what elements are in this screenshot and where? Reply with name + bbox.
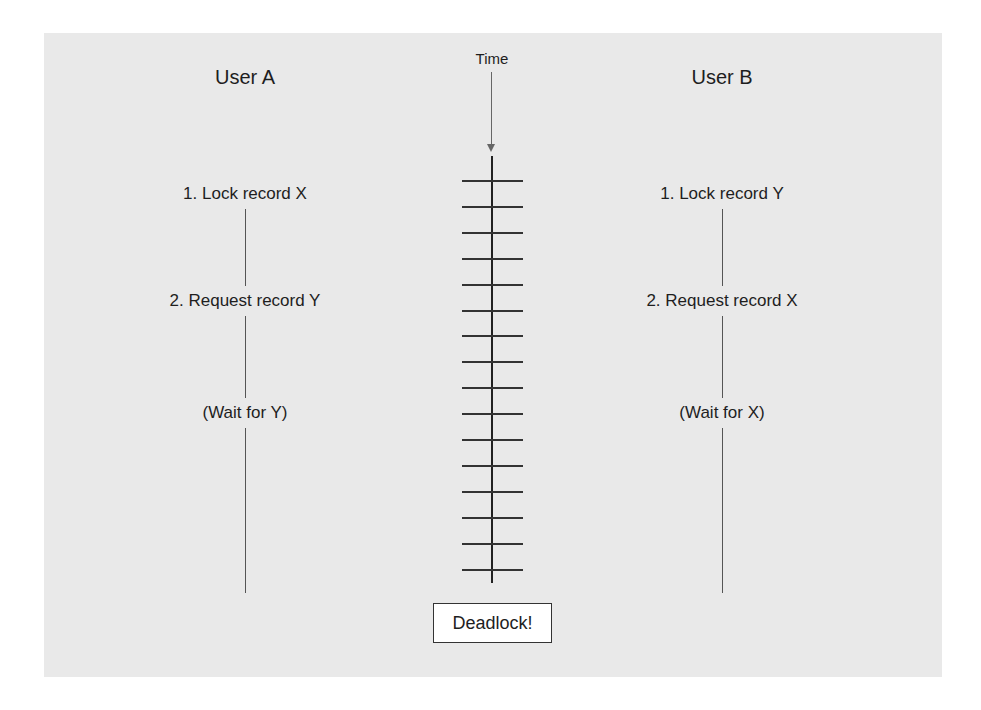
- timeline-tick: [462, 284, 523, 286]
- user-b-line-1: [722, 209, 723, 286]
- user-a-step-3: (Wait for Y): [202, 403, 287, 423]
- user-b-step-2: 2. Request record X: [646, 291, 797, 311]
- timeline-tick: [462, 258, 523, 260]
- user-a-line-3: [245, 428, 246, 593]
- timeline-tick: [462, 465, 523, 467]
- timeline-tick: [462, 206, 523, 208]
- user-a-step-2: 2. Request record Y: [170, 291, 321, 311]
- user-a-line-1: [245, 209, 246, 286]
- timeline-tick: [462, 310, 523, 312]
- user-b-step-1: 1. Lock record Y: [660, 184, 783, 204]
- timeline-tick: [462, 232, 523, 234]
- timeline-tick: [462, 387, 523, 389]
- timeline-axis: [491, 156, 493, 583]
- timeline-tick: [462, 569, 523, 571]
- timeline-tick: [462, 491, 523, 493]
- user-a-line-2: [245, 316, 246, 398]
- user-a-step-1: 1. Lock record X: [183, 184, 307, 204]
- user-a-title: User A: [215, 66, 275, 89]
- user-b-line-3: [722, 428, 723, 593]
- user-b-step-3: (Wait for X): [679, 403, 764, 423]
- user-b-title: User B: [691, 66, 752, 89]
- timeline-tick: [462, 361, 523, 363]
- timeline-tick: [462, 543, 523, 545]
- time-label: Time: [476, 50, 509, 67]
- user-b-line-2: [722, 316, 723, 398]
- deadlock-label: Deadlock!: [452, 613, 532, 634]
- arrow-down-icon: [487, 144, 495, 152]
- timeline-tick: [462, 439, 523, 441]
- deadlock-box: Deadlock!: [433, 603, 552, 643]
- timeline-tick: [462, 413, 523, 415]
- time-arrow-shaft: [491, 72, 492, 145]
- timeline-tick: [462, 180, 523, 182]
- diagram-background: [44, 33, 942, 677]
- timeline-tick: [462, 335, 523, 337]
- timeline-tick: [462, 517, 523, 519]
